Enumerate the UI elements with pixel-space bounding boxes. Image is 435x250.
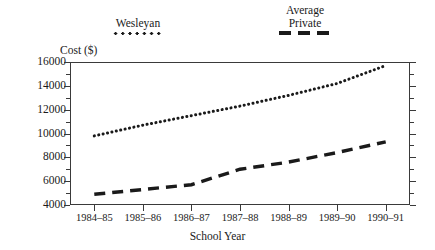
y-tick	[410, 181, 416, 182]
y-tick-label: 12000	[20, 104, 66, 116]
y-tick	[410, 193, 414, 194]
y-tick	[410, 145, 414, 146]
y-tick-label: 4000	[20, 199, 66, 211]
y-tick-label: 8000	[20, 151, 66, 163]
y-tick	[410, 134, 416, 135]
y-tick-label: 16000	[20, 56, 66, 68]
y-tick	[410, 86, 416, 87]
y-tick-label: 10000	[20, 128, 66, 140]
y-tick-label: 6000	[20, 175, 66, 187]
y-tick	[410, 157, 416, 158]
y-tick	[410, 169, 414, 170]
y-tick	[410, 110, 416, 111]
y-tick-label: 14000	[20, 80, 66, 92]
y-tick	[410, 205, 416, 206]
y-tick	[410, 122, 414, 123]
x-axis-labels: 1984–851985–861986–871987–881988–891989–…	[70, 0, 410, 250]
y-tick	[410, 74, 414, 75]
cost-line-chart: Wesleyan Average Private Cost ($) 400060…	[0, 0, 435, 250]
x-axis-title: School Year	[0, 230, 435, 242]
y-tick	[410, 98, 414, 99]
x-tick-label: 1990–91	[346, 212, 426, 223]
y-tick	[410, 62, 416, 63]
y-axis-labels: 40006000800010000120001400016000	[16, 62, 66, 205]
